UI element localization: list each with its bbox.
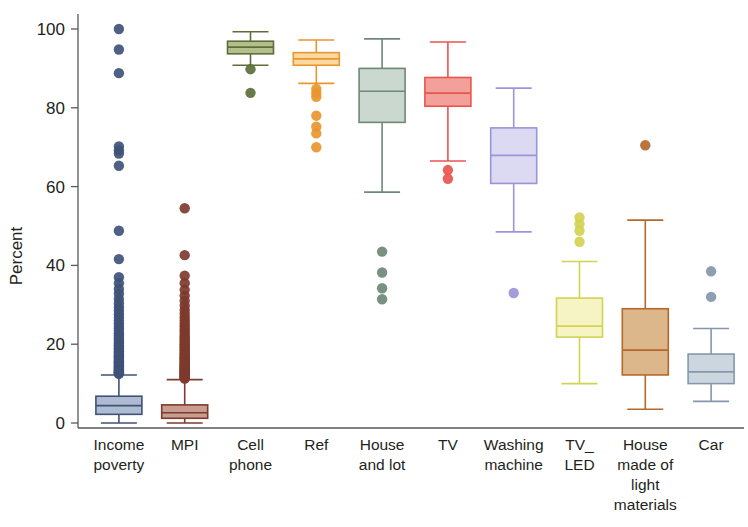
- box-iqr: [688, 354, 734, 384]
- x-category-label: House: [360, 436, 405, 453]
- outlier-point: [114, 369, 124, 379]
- outlier-point: [245, 88, 255, 98]
- outlier-point: [311, 110, 321, 120]
- outlier-point: [114, 226, 124, 236]
- outlier-point: [180, 250, 190, 260]
- x-category-label: made of: [617, 456, 674, 473]
- box-plot-group: [162, 203, 208, 423]
- box-plot-group: [425, 42, 471, 184]
- x-category-label: LED: [564, 456, 594, 473]
- outlier-point: [114, 148, 124, 158]
- outlier-point: [180, 203, 190, 213]
- x-category-label: Washing: [484, 436, 544, 453]
- outlier-point: [706, 266, 716, 276]
- box-iqr: [162, 405, 208, 418]
- boxplot-svg: 020406080100PercentIncomepovertyMPICellp…: [0, 0, 748, 527]
- box-plot-group: [688, 266, 734, 401]
- x-category-label: Cell: [237, 436, 264, 453]
- x-category-label: phone: [229, 456, 272, 473]
- outlier-point: [114, 161, 124, 171]
- box-plot-group: [491, 88, 537, 298]
- y-tick-label: 20: [46, 335, 65, 354]
- outlier-point: [114, 24, 124, 34]
- box-plot-group: [622, 140, 668, 409]
- boxplot-figure: 020406080100PercentIncomepovertyMPICellp…: [0, 0, 748, 527]
- outlier-point: [114, 68, 124, 78]
- x-category-label: MPI: [171, 436, 199, 453]
- y-tick-label: 60: [46, 178, 65, 197]
- x-category-label: and lot: [359, 456, 406, 473]
- outlier-point: [180, 373, 190, 383]
- box-iqr: [557, 298, 603, 337]
- y-tick-label: 0: [56, 414, 65, 433]
- outlier-point: [509, 288, 519, 298]
- x-category-label: Ref: [304, 436, 329, 453]
- outlier-point: [311, 128, 321, 138]
- x-category-label: materials: [614, 496, 677, 513]
- outlier-point: [574, 237, 584, 247]
- outlier-point: [377, 294, 387, 304]
- outlier-point: [377, 267, 387, 277]
- outlier-point: [377, 283, 387, 293]
- outlier-point: [311, 92, 321, 102]
- outlier-point: [640, 140, 650, 150]
- y-tick-label: 40: [46, 256, 65, 275]
- y-tick-label: 100: [37, 20, 65, 39]
- y-axis-title: Percent: [7, 226, 26, 285]
- x-category-label: TV: [438, 436, 458, 453]
- outlier-point: [377, 246, 387, 256]
- outlier-point: [443, 174, 453, 184]
- box-plot-group: [96, 24, 142, 423]
- x-category-label: machine: [484, 456, 543, 473]
- outlier-point: [114, 44, 124, 54]
- box-iqr: [425, 77, 471, 106]
- x-category-label: Car: [699, 436, 724, 453]
- outlier-point: [311, 142, 321, 152]
- outlier-point: [245, 64, 255, 74]
- x-category-labels: IncomepovertyMPICellphoneRefHouseand lot…: [93, 436, 723, 513]
- y-tick-group: 020406080100: [37, 20, 78, 433]
- x-category-label: TV_: [565, 436, 594, 453]
- x-category-label: Income: [93, 436, 144, 453]
- outlier-point: [114, 254, 124, 264]
- outlier-point: [706, 292, 716, 302]
- box-iqr: [622, 309, 668, 375]
- outlier-point: [574, 226, 584, 236]
- box-iqr: [359, 68, 405, 122]
- box-plot-group: [293, 40, 339, 152]
- x-category-label: poverty: [93, 456, 144, 473]
- box-plot-group: [557, 212, 603, 383]
- x-category-label: House: [623, 436, 668, 453]
- box-plot-group: [359, 39, 405, 305]
- box-plot-group: [228, 32, 274, 98]
- y-tick-label: 80: [46, 99, 65, 118]
- x-category-label: light: [631, 476, 660, 493]
